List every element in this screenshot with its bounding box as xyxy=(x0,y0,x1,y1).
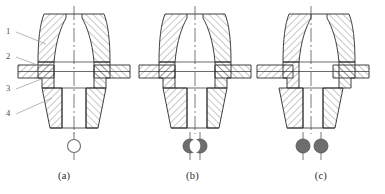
caption-panel-a: (a) xyxy=(0,168,128,190)
panel-c-symbol-circle-2 xyxy=(314,139,328,153)
panel-b xyxy=(139,6,251,160)
callout-label-4: 4 xyxy=(6,109,10,118)
leader-line-3 xyxy=(16,78,44,89)
panel-c xyxy=(257,6,369,160)
caption-panel-c: (c) xyxy=(257,168,385,190)
technical-drawing-canvas xyxy=(0,0,385,194)
caption-panel-b: (b) xyxy=(128,168,256,190)
callout-label-3: 3 xyxy=(6,84,10,93)
caption-row: (a) (b) (c) xyxy=(0,168,385,190)
figure-root: 1 2 3 4 (a) (b) (c) xyxy=(0,0,385,194)
panel-a xyxy=(18,6,130,160)
callout-label-1: 1 xyxy=(6,27,10,36)
panel-a-symbol-circle-1 xyxy=(68,140,81,153)
panel-c-assembly xyxy=(257,14,369,128)
callout-label-2: 2 xyxy=(6,52,10,61)
panel-c-symbol-circle-1 xyxy=(296,139,310,153)
